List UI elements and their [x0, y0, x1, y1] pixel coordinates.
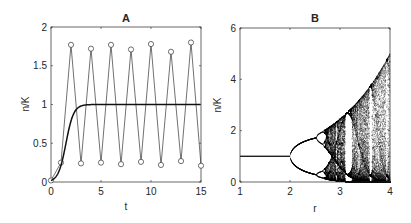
- circle-marker: [118, 162, 123, 167]
- x-tick-label: 0: [48, 186, 54, 197]
- bifurcation-points: [240, 54, 390, 182]
- x-tick-label: 10: [145, 186, 157, 197]
- panel-a-xlabel: t: [125, 201, 128, 212]
- panel-b-plot-area: [240, 54, 390, 182]
- circle-marker: [128, 47, 133, 52]
- y-tick-label: 1: [41, 99, 47, 110]
- panel-b-ticks: 12340246: [230, 23, 393, 198]
- x-tick-label: 5: [98, 186, 104, 197]
- circle-marker: [98, 160, 103, 165]
- x-tick-label: 3: [337, 186, 343, 197]
- circle-marker: [198, 163, 203, 168]
- x-tick-label: 15: [195, 186, 207, 197]
- y-tick-label: 4: [230, 74, 236, 85]
- panel-b-xlabel: r: [313, 203, 317, 214]
- circle-marker: [108, 42, 113, 47]
- y-tick-label: 0: [230, 177, 236, 188]
- circle-marker: [78, 161, 83, 166]
- circle-marker: [88, 46, 93, 51]
- circle-marker: [138, 159, 143, 164]
- figure: A 05101500.511.52 t n/K B 12340246 r n/K: [0, 0, 411, 223]
- y-tick-label: 1.5: [33, 60, 47, 71]
- y-tick-label: 2: [41, 22, 47, 33]
- circle-marker: [148, 41, 153, 46]
- circle-marker: [168, 49, 173, 54]
- x-tick-label: 4: [387, 186, 393, 197]
- x-tick-label: 1: [237, 186, 243, 197]
- panel-a: A 05101500.511.52 t n/K: [20, 12, 207, 212]
- x-tick-label: 2: [287, 186, 293, 197]
- panel-b: B 12340246 r n/K: [212, 12, 393, 214]
- panel-b-title: B: [311, 12, 319, 24]
- panel-a-title: A: [122, 12, 130, 24]
- y-tick-label: 0.5: [33, 138, 47, 149]
- y-tick-label: 2: [230, 125, 236, 136]
- continuous-series-line: [51, 105, 201, 181]
- y-tick-label: 0: [41, 177, 47, 188]
- panel-a-plot-area: [48, 40, 203, 183]
- y-tick-label: 6: [230, 23, 236, 34]
- panel-b-ylabel: n/K: [212, 97, 223, 112]
- panel-a-ylabel: n/K: [20, 96, 31, 111]
- circle-marker: [178, 158, 183, 163]
- circle-marker: [68, 42, 73, 47]
- circle-marker: [158, 162, 163, 167]
- panel-b-axes-box: [240, 28, 390, 182]
- circle-marker: [188, 40, 193, 45]
